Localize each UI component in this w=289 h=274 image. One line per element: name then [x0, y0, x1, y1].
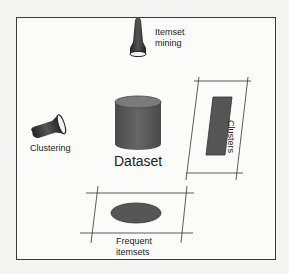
clusters-panel: [186, 77, 251, 180]
itemset-mining-line1: Itemset: [155, 27, 185, 38]
frequent-itemsets-line1: Frequent: [116, 236, 152, 247]
flashlight-icon: [29, 114, 67, 143]
frequent-itemsets-line2: itemsets: [116, 247, 152, 258]
itemset-mining-line2: mining: [155, 38, 185, 49]
frequent-itemsets-panel: [80, 186, 194, 243]
dataset-cylinder: [115, 96, 161, 150]
clustering-label: Clustering: [30, 143, 71, 154]
itemset-mining-label: Itemset mining: [155, 27, 185, 49]
dataset-label: Dataset: [114, 153, 162, 169]
diagram-art: [0, 0, 289, 274]
clusters-label: Clusters: [226, 120, 236, 153]
flashlight-icon: [130, 17, 146, 57]
frequent-itemsets-label: Frequent itemsets: [116, 236, 152, 258]
